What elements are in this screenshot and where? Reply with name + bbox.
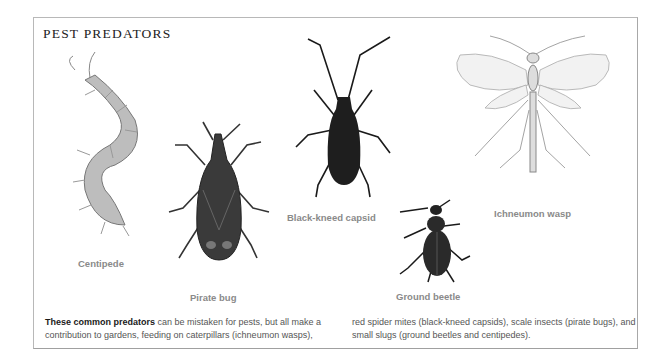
black-kneed-capsid-illustration xyxy=(290,35,400,210)
label-centipede: Centipede xyxy=(78,258,124,269)
caption-bold-lead: These common predators xyxy=(45,317,155,327)
ichneumon-wasp-illustration xyxy=(450,40,650,180)
caption-column-1: These common predators can be mistaken f… xyxy=(45,316,335,342)
caption-text-2: red spider mites (black-kneed capsids), … xyxy=(352,317,636,340)
figure-title: PEST PREDATORS xyxy=(43,26,171,42)
caption-column-2: red spider mites (black-kneed capsids), … xyxy=(352,316,642,342)
pirate-bug-illustration xyxy=(165,120,275,280)
label-ichneumon-wasp: Ichneumon wasp xyxy=(494,208,571,219)
label-pirate-bug: Pirate bug xyxy=(190,292,236,303)
centipede-illustration xyxy=(55,50,155,250)
ground-beetle-illustration xyxy=(390,198,480,288)
label-black-kneed-capsid: Black-kneed capsid xyxy=(287,212,376,223)
label-ground-beetle: Ground beetle xyxy=(396,291,460,302)
